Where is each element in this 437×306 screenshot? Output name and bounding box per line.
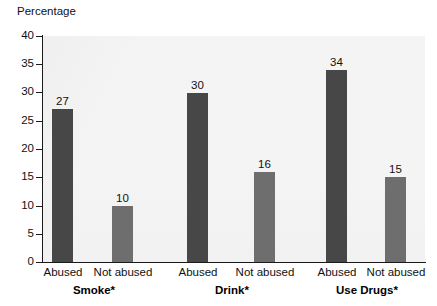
y-tick-label-0: 0 <box>8 256 34 268</box>
bar-value-use-drugs-abused: 34 <box>330 56 343 68</box>
bar-drink-abused <box>187 93 208 263</box>
bar-group-smoke-not-abused: 10 <box>112 36 133 262</box>
bar-value-use-drugs-not-abused: 15 <box>389 163 402 175</box>
x-group-label-smoke: Smoke* <box>73 284 115 297</box>
x-category-label-smoke-not-abused: Not abused <box>94 266 153 279</box>
bar-smoke-not-abused <box>112 206 133 263</box>
y-tick-25 <box>36 121 42 122</box>
bar-smoke-abused <box>52 109 73 262</box>
y-tick-30 <box>36 92 42 93</box>
bar-use-drugs-abused <box>326 70 347 262</box>
bar-group-use-drugs-not-abused: 15 <box>385 36 406 262</box>
y-tick-20 <box>36 149 42 150</box>
x-category-label-drink-abused: Abused <box>178 266 217 279</box>
y-tick-label-35: 35 <box>8 58 34 70</box>
bar-group-smoke-abused: 27 <box>52 36 73 262</box>
y-tick-15 <box>36 177 42 178</box>
y-tick-label-30: 30 <box>8 86 34 98</box>
x-group-label-drink: Drink* <box>215 284 249 297</box>
y-tick-label-10: 10 <box>8 200 34 212</box>
bar-value-smoke-not-abused: 10 <box>116 192 129 204</box>
bar-value-smoke-abused: 27 <box>56 95 69 107</box>
y-tick-10 <box>36 206 42 207</box>
y-tick-35 <box>36 64 42 65</box>
x-category-label-drink-not-abused: Not abused <box>236 266 295 279</box>
y-axis-line <box>42 35 43 263</box>
x-group-label-use-drugs: Use Drugs* <box>336 284 398 297</box>
bar-group-drink-not-abused: 16 <box>254 36 275 262</box>
y-tick-label-25: 25 <box>8 115 34 127</box>
bar-value-drink-not-abused: 16 <box>258 158 271 170</box>
bar-drink-not-abused <box>254 172 275 262</box>
bar-group-use-drugs-abused: 34 <box>326 36 347 262</box>
plot-area <box>43 36 425 262</box>
x-category-label-smoke-abused: Abused <box>43 266 82 279</box>
bar-chart: Percentage 40 35 30 25 20 15 10 5 0 27 1… <box>0 0 437 306</box>
bar-use-drugs-not-abused <box>385 177 406 262</box>
y-tick-40 <box>36 36 42 37</box>
y-tick-label-15: 15 <box>8 171 34 183</box>
bar-group-drink-abused: 30 <box>187 36 208 262</box>
y-axis-title: Percentage <box>17 5 76 18</box>
x-category-label-drugs-abused: Abused <box>317 266 356 279</box>
y-tick-label-5: 5 <box>8 228 34 240</box>
x-axis-line <box>42 262 426 263</box>
y-tick-5 <box>36 234 42 235</box>
y-tick-label-20: 20 <box>8 143 34 155</box>
x-category-label-drugs-not-abused: Not abused <box>367 266 426 279</box>
bar-value-drink-abused: 30 <box>191 79 204 91</box>
y-tick-label-40: 40 <box>8 30 34 42</box>
y-tick-0 <box>36 262 42 263</box>
